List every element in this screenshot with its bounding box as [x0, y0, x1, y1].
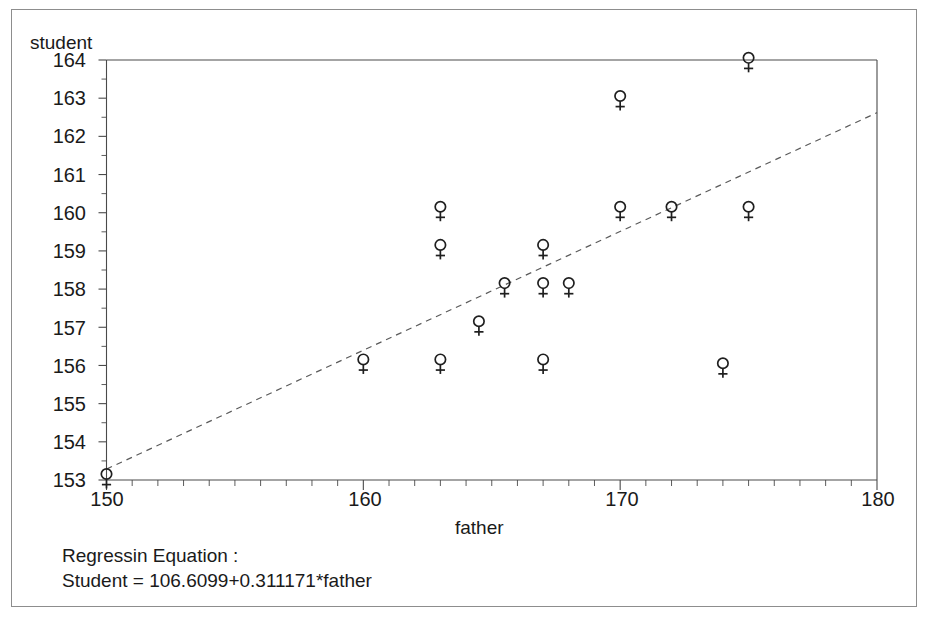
data-point-marker [474, 316, 484, 336]
female-symbol-icon [538, 354, 548, 374]
data-point-marker [435, 354, 445, 374]
female-symbol-icon [358, 354, 368, 374]
data-point-marker [435, 202, 445, 222]
female-symbol-icon [615, 91, 625, 111]
data-point-marker [743, 53, 753, 73]
data-point-marker [538, 278, 548, 298]
female-symbol-icon [564, 278, 574, 298]
data-point-marker [538, 354, 548, 374]
plot-frame [107, 60, 878, 480]
data-point-marker [615, 202, 625, 222]
female-symbol-icon [435, 354, 445, 374]
female-symbol-icon [538, 240, 548, 260]
data-point-marker [615, 91, 625, 111]
female-symbol-icon [538, 278, 548, 298]
data-point-marker [358, 354, 368, 374]
female-symbol-icon [435, 202, 445, 222]
regression-fit-line [107, 113, 878, 469]
data-point-marker [743, 202, 753, 222]
plot-canvas [0, 0, 931, 624]
data-point-marker [499, 278, 509, 298]
data-point-marker [666, 202, 676, 222]
female-symbol-icon [474, 316, 484, 336]
female-symbol-icon [743, 53, 753, 73]
data-point-layer [101, 53, 753, 489]
regression-scatter-figure: student father 164 163 162 161 160 159 1… [0, 0, 931, 624]
data-point-marker [435, 240, 445, 260]
y-axis-ticks [99, 60, 107, 480]
female-symbol-icon [615, 202, 625, 222]
data-point-marker [564, 278, 574, 298]
data-point-marker [718, 358, 728, 378]
female-symbol-icon [743, 202, 753, 222]
female-symbol-icon [499, 278, 509, 298]
female-symbol-icon [435, 240, 445, 260]
fit-line-segment [107, 113, 878, 469]
female-symbol-icon [666, 202, 676, 222]
female-symbol-icon [718, 358, 728, 378]
x-axis-ticks [107, 480, 878, 490]
data-point-marker [538, 240, 548, 260]
